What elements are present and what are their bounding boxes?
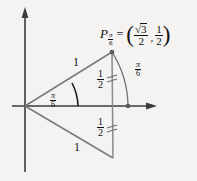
x-coordinate-fraction: √32 [134, 23, 149, 47]
chord-segment [112, 52, 113, 158]
arc-angle-label: π6 [135, 61, 141, 78]
y-axis-arrow-icon [22, 7, 29, 18]
arc-angle-denominator: 6 [135, 70, 141, 78]
upper-radius-length-label: 1 [73, 56, 79, 68]
y-coordinate-fraction: 12 [155, 24, 163, 47]
equals-sign: = [113, 27, 126, 41]
origin-angle-label: π6 [50, 92, 56, 109]
y-coordinate-denominator: 2 [155, 36, 163, 47]
x-axis-arrow-icon [146, 103, 157, 110]
origin-angle-denominator: 6 [50, 101, 56, 109]
point-subscript-denominator: 6 [108, 40, 114, 47]
lower-half-length-label: 12 [97, 117, 104, 138]
trigonometry-diagram: Pπ6=(√32,12) π6 π6 1 1 12 12 [0, 0, 197, 181]
origin-angle-arc [72, 83, 78, 106]
point-P-marker [110, 50, 115, 55]
y-coordinate-numerator: 1 [155, 24, 163, 36]
lower-radius-length-label: 1 [74, 141, 80, 153]
unit-circle-arc [112, 52, 128, 106]
coordinate-pair: √32,12 [134, 23, 163, 47]
paren-open: ( [126, 26, 134, 44]
axis-point-marker [126, 104, 131, 109]
coordinate-comma: , [148, 32, 155, 43]
point-coordinate-equation: Pπ6=(√32,12) [100, 23, 170, 47]
paren-close: ) [163, 26, 171, 44]
radicand: 3 [140, 23, 148, 35]
upper-half-denominator: 2 [97, 80, 104, 90]
lower-half-denominator: 2 [97, 128, 104, 138]
x-coordinate-denominator: 2 [134, 36, 149, 47]
point-symbol: P [100, 26, 108, 41]
upper-half-length-label: 12 [97, 69, 104, 90]
